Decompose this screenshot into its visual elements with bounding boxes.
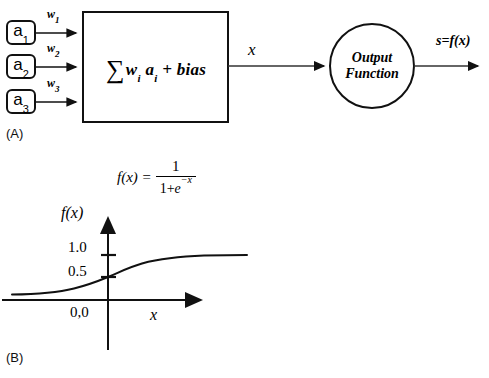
formula-lhs: f(x) = <box>117 169 152 186</box>
output-arrow <box>414 57 486 77</box>
input-node-a1-label: a1 <box>13 22 29 42</box>
input-node-a2-label: a2 <box>13 56 29 76</box>
panel-a: a1 a2 a3 w1 w2 w3 <box>0 0 489 148</box>
net-input-arrow <box>228 57 332 77</box>
input-node-a1: a1 <box>6 20 36 45</box>
input-arrows <box>36 0 86 140</box>
summation-formula: ∑wi ai + bias <box>106 55 206 85</box>
input-node-a2: a2 <box>6 54 36 79</box>
summation-box: ∑wi ai + bias <box>82 11 229 123</box>
input-node-a3-label: a3 <box>13 91 29 111</box>
panel-b-label: (B) <box>6 350 23 365</box>
output-label: s=f(x) <box>436 33 470 49</box>
sigmoid-curve <box>12 255 247 295</box>
figure-canvas: a1 a2 a3 w1 w2 w3 <box>0 0 489 378</box>
formula-fraction: 1 1+e−x <box>156 158 196 197</box>
input-node-a3: a3 <box>6 89 36 114</box>
sigmoid-formula: f(x) = 1 1+e−x <box>117 158 196 197</box>
sigmoid-plot <box>0 205 260 370</box>
output-function-line2: Function <box>345 66 399 82</box>
output-function-line1: Output <box>352 50 392 66</box>
sigma-icon: ∑ <box>106 55 125 84</box>
panel-b: f(x) 1.0 0.5 0,0 x <box>0 200 489 378</box>
formula-denominator: 1+e−x <box>156 177 196 197</box>
output-function-node: Output Function <box>329 23 415 109</box>
panel-a-label: (A) <box>6 126 23 141</box>
